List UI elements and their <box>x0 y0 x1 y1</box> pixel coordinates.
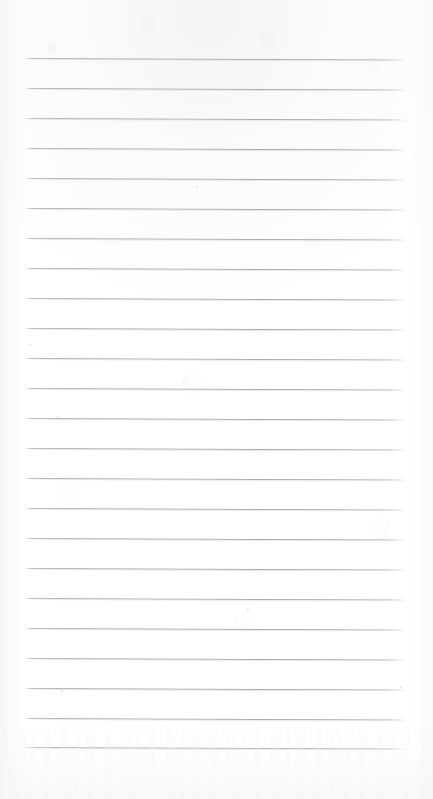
paper-background <box>0 0 433 799</box>
scanned-page <box>0 0 433 799</box>
